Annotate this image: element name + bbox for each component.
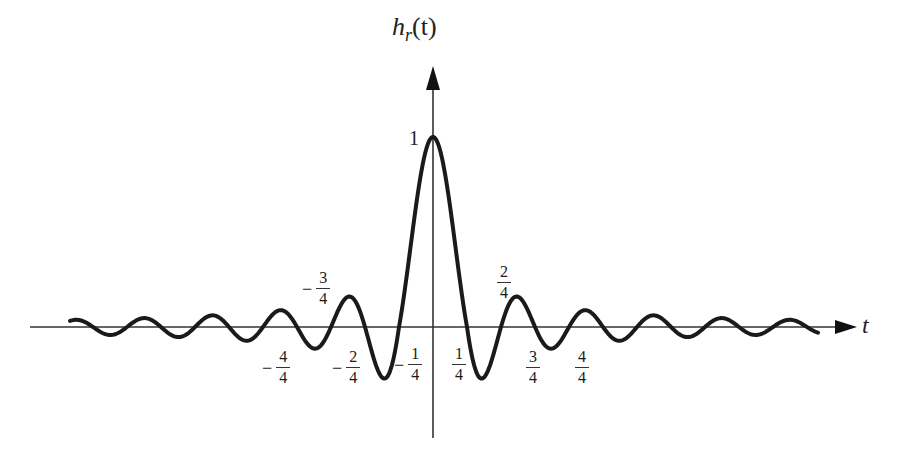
y-axis-arrow-icon <box>426 66 440 90</box>
label-1-4: 14 <box>448 346 466 383</box>
label-neg-1-4: − 14 <box>394 346 422 383</box>
sinc-curve <box>70 137 818 379</box>
label-3-4: 34 <box>522 349 540 386</box>
t-axis-label: t <box>862 312 869 339</box>
t-axis-arrow-icon <box>835 320 857 334</box>
sinc-plot <box>0 0 900 467</box>
peak-value-label: 1 <box>409 127 419 150</box>
y-axis-label: hr(t) <box>392 12 437 46</box>
label-neg-3-4: − 34 <box>302 270 330 307</box>
label-2-4: 24 <box>493 264 511 301</box>
label-4-4: 44 <box>571 349 589 386</box>
label-neg-2-4: − 24 <box>332 349 360 386</box>
label-neg-4-4: − 44 <box>262 349 290 386</box>
